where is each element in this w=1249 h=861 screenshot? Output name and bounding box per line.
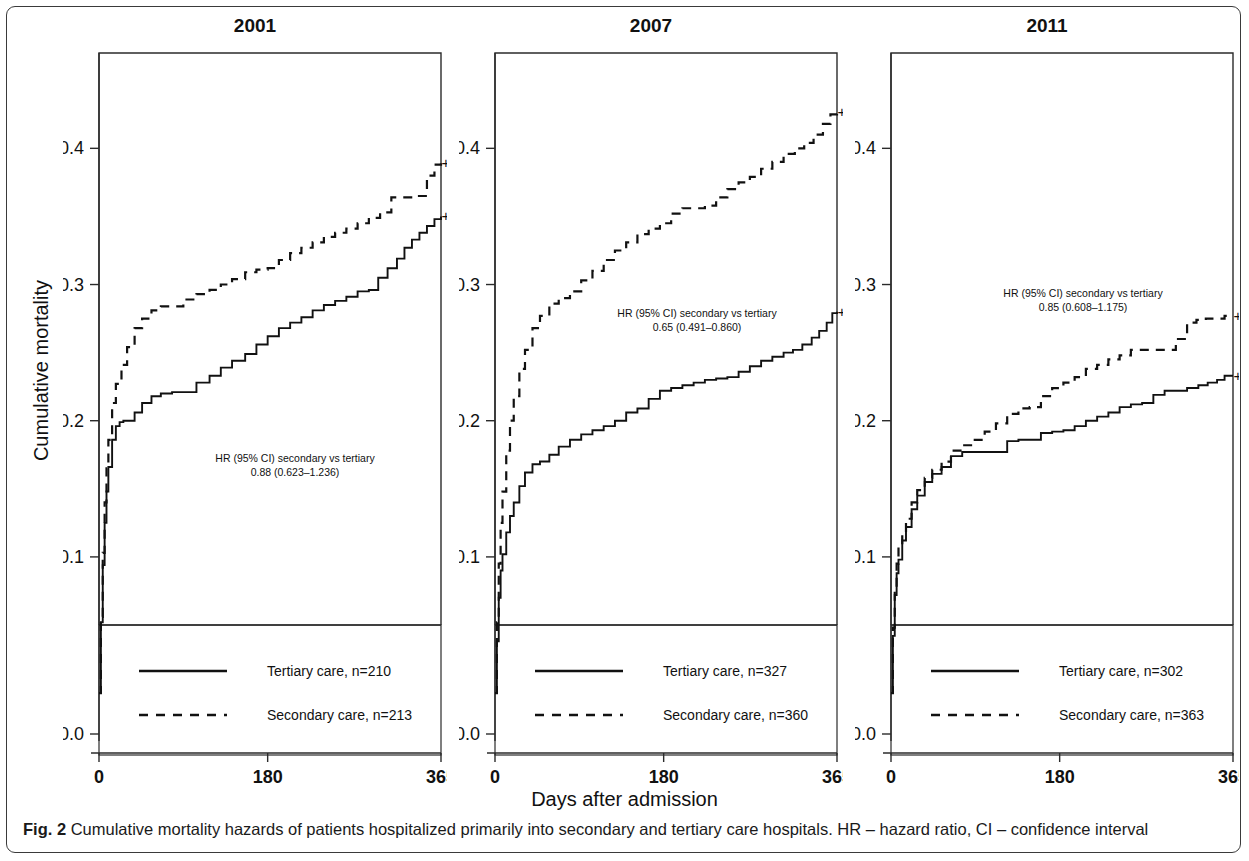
y-tick-label: 0.3 <box>459 275 480 295</box>
x-tick-label: 365 <box>426 767 447 787</box>
censor-mark-icon: + <box>838 303 843 320</box>
y-tick-label: 0.3 <box>63 275 84 295</box>
plot-2001: 0.00.10.20.30.40180365++HR (95% CI) seco… <box>63 7 447 797</box>
censor-mark-icon: + <box>1234 307 1239 324</box>
x-axis-label: Days after admission <box>7 788 1242 811</box>
series-curve-tertiary <box>495 312 837 693</box>
y-tick-label: 0.1 <box>459 547 480 567</box>
y-tick-label: 0.3 <box>855 275 876 295</box>
plot-2011: 0.00.10.20.30.40180365++HR (95% CI) seco… <box>855 7 1239 797</box>
x-tick-label: 365 <box>822 767 843 787</box>
censor-mark-icon: + <box>442 154 447 171</box>
y-tick-label: 0.2 <box>855 411 876 431</box>
series-curve-secondary <box>99 163 441 693</box>
figure-caption: Fig. 2 Cumulative mortality hazards of p… <box>23 819 1233 839</box>
legend-label: Tertiary care, n=327 <box>663 663 787 679</box>
x-tick-label: 180 <box>1045 767 1075 787</box>
x-tick-label: 0 <box>94 767 104 787</box>
y-tick-label: 0.1 <box>63 547 84 567</box>
figure-frame: Cumulative mortality 2001 0.00.10.20.30.… <box>6 6 1241 853</box>
series-curve-tertiary <box>891 376 1233 693</box>
y-tick-label: 0.2 <box>459 411 480 431</box>
hr-annotation-line1: HR (95% CI) secondary vs tertiary <box>215 452 375 464</box>
y-tick-label: 0.4 <box>459 138 480 158</box>
y-tick-label: 0.1 <box>855 547 876 567</box>
censor-mark-icon: + <box>442 207 447 224</box>
panels-row: 2001 0.00.10.20.30.40180365++HR (95% CI)… <box>7 7 1242 797</box>
censor-mark-icon: + <box>1234 367 1239 384</box>
x-tick-label: 180 <box>649 767 679 787</box>
hr-annotation-line2: 0.65 (0.491–0.860) <box>653 321 742 333</box>
x-tick-label: 180 <box>253 767 283 787</box>
y-tick-label: 0.4 <box>63 138 84 158</box>
panel-2011: 2011 0.00.10.20.30.40180365++HR (95% CI)… <box>855 7 1239 797</box>
x-tick-label: 0 <box>886 767 896 787</box>
y-tick-label: 0.0 <box>63 724 84 744</box>
panel-2007: 2007 0.00.10.20.30.40180365++HR (95% CI)… <box>459 7 843 797</box>
x-tick-label: 0 <box>490 767 500 787</box>
hr-annotation-line2: 0.85 (0.608–1.175) <box>1039 301 1128 313</box>
legend-label: Secondary care, n=213 <box>267 707 412 723</box>
hr-annotation-line1: HR (95% CI) secondary vs tertiary <box>1003 287 1163 299</box>
y-tick-label: 0.2 <box>63 411 84 431</box>
panel-2001: 2001 0.00.10.20.30.40180365++HR (95% CI)… <box>63 7 447 797</box>
y-tick-label: 0.0 <box>459 724 480 744</box>
caption-prefix: Fig. 2 <box>23 820 66 838</box>
legend-label: Tertiary care, n=210 <box>267 663 391 679</box>
legend-label: Tertiary care, n=302 <box>1059 663 1183 679</box>
series-curve-secondary <box>495 112 837 694</box>
hr-annotation-line2: 0.88 (0.623–1.236) <box>251 466 340 478</box>
hr-annotation-line1: HR (95% CI) secondary vs tertiary <box>617 307 777 319</box>
y-tick-label: 0.0 <box>855 724 876 744</box>
censor-mark-icon: + <box>838 103 843 120</box>
y-tick-label: 0.4 <box>855 138 876 158</box>
series-curve-secondary <box>891 316 1233 693</box>
legend-label: Secondary care, n=363 <box>1059 707 1204 723</box>
legend-label: Secondary care, n=360 <box>663 707 808 723</box>
x-tick-label: 365 <box>1218 767 1239 787</box>
caption-text: Cumulative mortality hazards of patients… <box>71 820 1149 838</box>
plot-2007: 0.00.10.20.30.40180365++HR (95% CI) seco… <box>459 7 843 797</box>
